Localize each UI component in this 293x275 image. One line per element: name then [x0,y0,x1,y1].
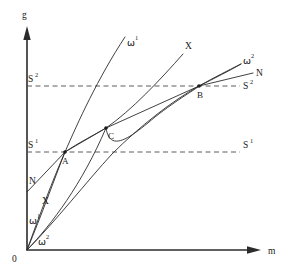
axes-group [23,26,261,254]
curve-label-omega1-top-sup: 1 [135,34,138,41]
curve-label-omega1-top-text: ω [127,37,135,48]
threshold-s1-left-sup: 1 [35,137,38,144]
curve-label-omega1-left-text: ω [29,215,37,226]
threshold-s1-right-sup: 1 [250,137,253,144]
curve-label-x-left: X [42,196,49,206]
origin-label: 0 [12,254,17,264]
curve-n [27,73,253,192]
curve-label-omega2-left-text: ω [38,236,46,247]
point-marker-b [197,84,201,88]
threshold-label-s2-left: S 2 [28,71,38,84]
curve-omega2 [27,64,241,250]
threshold-s2-right-text: S [243,81,248,91]
curve-label-omega2-left: ω 2 [38,233,49,247]
curve-label-omega1-left-sup: 1 [37,212,40,219]
curve-label-omega1-top: ω 1 [127,34,138,48]
threshold-s2-left-sup: 2 [35,71,38,78]
curve-label-omega2-right-sup: 2 [251,52,254,59]
curve-label-n-left: N [29,176,36,186]
threshold-label-s2-right: S 2 [243,78,253,91]
curve-label-n-right: N [256,68,263,78]
point-label-c: C [108,131,114,141]
point-marker-c [104,126,108,130]
curve-omega2-upper [27,64,241,250]
y-axis-arrow-icon [23,26,30,40]
curve-omega1 [27,37,125,250]
curve-diagram: g m 0 S 2 S 1 S 2 S 1 ω 1 X ω 2 [0,0,293,275]
threshold-s2-left-text: S [28,74,33,84]
threshold-label-s1-right: S 1 [243,137,253,150]
curves-group [27,37,253,250]
point-label-b: B [197,90,203,100]
curve-label-omega2-right-text: ω [243,55,251,66]
curve-label-x-top: X [185,41,192,51]
y-axis-label: g [22,10,27,20]
threshold-lines-group [27,86,240,152]
threshold-s1-right-text: S [243,140,248,150]
threshold-label-s1-left: S 1 [28,137,38,150]
point-marker-a [63,150,67,154]
curve-label-omega2-right: ω 2 [243,52,254,66]
x-axis-arrow-icon [247,246,261,253]
curve-label-omega2-left-sup: 2 [46,233,49,240]
figure-container: g m 0 S 2 S 1 S 2 S 1 ω 1 X ω 2 [0,0,293,275]
point-label-a: A [62,156,69,166]
x-axis-label: m [268,246,276,256]
threshold-s1-left-text: S [28,140,33,150]
threshold-s2-right-sup: 2 [250,78,253,85]
